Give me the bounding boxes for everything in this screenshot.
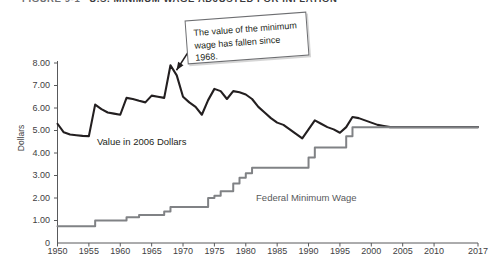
callout-text: The value of the minimum wage has fallen… (193, 19, 303, 64)
callout-arrow-head (176, 62, 183, 70)
series-label-real: Value in 2006 Dollars (97, 136, 187, 147)
callout-box: The value of the minimum wage has fallen… (185, 12, 310, 65)
series-label-nominal: Federal Minimum Wage (256, 192, 356, 203)
chart-axes (54, 61, 478, 247)
